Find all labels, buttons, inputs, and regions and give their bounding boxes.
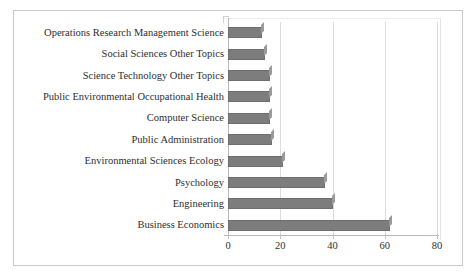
category-label: Psychology — [18, 177, 224, 189]
bar-row — [228, 86, 437, 107]
tick-mark-20 — [280, 234, 281, 239]
bar-row — [228, 215, 437, 236]
category-label: Social Sciences Other Topics — [18, 48, 224, 60]
value-axis-tick-labels: 020406080 — [228, 240, 443, 256]
bar[interactable] — [228, 220, 390, 231]
bar[interactable] — [228, 27, 262, 38]
tick-mark-80 — [437, 234, 438, 239]
bar[interactable] — [228, 70, 270, 81]
category-label: Public Administration — [18, 134, 224, 146]
tick-mark-40 — [333, 234, 334, 239]
gridline-80 — [437, 22, 438, 236]
bar-row — [228, 193, 437, 214]
tick-label-80: 80 — [432, 240, 443, 251]
tick-label-0: 0 — [225, 240, 230, 251]
bar[interactable] — [228, 49, 265, 60]
category-label: Computer Science — [18, 112, 224, 124]
bar-row — [228, 43, 437, 64]
bar-row — [228, 108, 437, 129]
category-label: Business Economics — [18, 219, 224, 231]
plot-area — [228, 22, 437, 236]
bar-row — [228, 129, 437, 150]
bar-row — [228, 22, 437, 43]
tick-label-20: 20 — [275, 240, 286, 251]
category-label: Engineering — [18, 198, 224, 210]
chart-frame: Business EconomicsEngineeringPsychologyE… — [13, 10, 463, 266]
category-axis-labels: Business EconomicsEngineeringPsychologyE… — [14, 22, 224, 236]
tick-label-60: 60 — [380, 240, 391, 251]
bar[interactable] — [228, 91, 270, 102]
bar[interactable] — [228, 134, 272, 145]
bar-row — [228, 172, 437, 193]
tick-mark-60 — [385, 234, 386, 239]
category-label: Science Technology Other Topics — [18, 70, 224, 82]
bar-row — [228, 65, 437, 86]
category-label: Operations Research Management Science — [18, 27, 224, 39]
category-label: Public Environmental Occupational Health — [18, 91, 224, 103]
bar[interactable] — [228, 177, 325, 188]
bar[interactable] — [228, 113, 270, 124]
bar-row — [228, 150, 437, 171]
bar[interactable] — [228, 156, 283, 167]
category-label: Environmental Sciences Ecology — [18, 155, 224, 167]
tick-mark-0 — [228, 234, 229, 239]
bar[interactable] — [228, 198, 333, 209]
tick-label-40: 40 — [327, 240, 338, 251]
